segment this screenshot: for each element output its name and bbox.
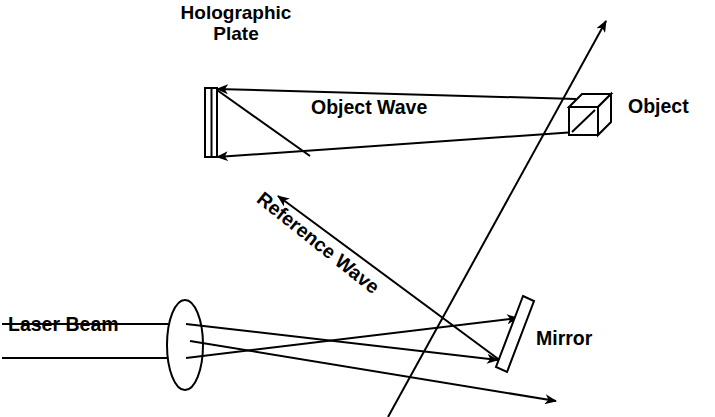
label-object-wave: Object Wave [311,97,427,119]
label-laser-beam: Laser Beam [8,314,119,336]
label-mirror: Mirror [536,328,592,350]
plate-diagonal-ray [217,90,310,156]
object-cube [569,94,611,135]
mirror [496,296,534,372]
lens-output-rays [186,318,518,360]
holographic-plate [205,88,217,157]
label-object: Object [628,96,689,118]
label-holographic-plate-line1: Holographic [163,2,309,23]
reflected-beam-down-right [190,341,556,401]
lens-to-mirror-lower-ray [186,324,498,360]
label-holographic-plate-line2: Plate [163,23,309,44]
holography-diagram-figure: Holographic Plate Object Wave Object Ref… [0,0,715,417]
diagram-canvas [0,0,715,417]
label-holographic-plate: Holographic Plate [163,2,309,45]
lens [167,300,203,390]
